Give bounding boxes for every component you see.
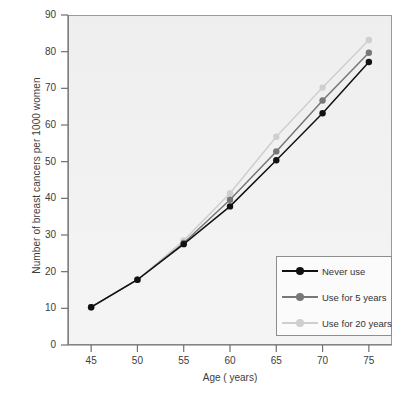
x-tick-label: 65 <box>261 355 291 366</box>
x-tick-label: 50 <box>122 355 152 366</box>
y-tick-label: 20 <box>30 266 56 277</box>
legend-item: Use for 5 years <box>277 284 393 310</box>
x-tick-label: 45 <box>76 355 106 366</box>
data-point-marker <box>366 37 372 43</box>
legend-key-icon <box>282 316 318 330</box>
y-tick-label: 0 <box>30 339 56 350</box>
y-tick-label: 50 <box>30 156 56 167</box>
data-point-marker <box>181 241 187 247</box>
data-point-marker <box>273 157 279 163</box>
legend-item-label: Use for 20 years <box>322 318 392 329</box>
x-tick-label: 60 <box>215 355 245 366</box>
data-point-marker <box>319 84 325 90</box>
legend-item-label: Never use <box>322 266 365 277</box>
y-axis-ticks <box>61 15 68 345</box>
data-point-marker <box>134 277 140 283</box>
data-point-marker <box>273 134 279 140</box>
data-point-marker <box>227 190 233 196</box>
y-tick-label: 70 <box>30 82 56 93</box>
y-tick-label: 80 <box>30 46 56 57</box>
data-point-marker <box>366 59 372 65</box>
data-point-marker <box>319 97 325 103</box>
legend-dot-swatch <box>296 267 304 275</box>
x-tick-label: 75 <box>354 355 384 366</box>
data-point-marker <box>319 110 325 116</box>
x-axis-ticks <box>91 345 369 352</box>
chart-legend: Never useUse for 5 yearsUse for 20 years <box>276 256 392 336</box>
legend-key-icon <box>282 264 318 278</box>
y-tick-label: 60 <box>30 119 56 130</box>
y-tick-label: 30 <box>30 229 56 240</box>
x-axis-title: Age ( years) <box>68 372 392 383</box>
y-tick-label: 40 <box>30 192 56 203</box>
legend-dot-swatch <box>296 319 304 327</box>
x-tick-label: 70 <box>308 355 338 366</box>
data-point-marker <box>88 304 94 310</box>
legend-dot-swatch <box>296 293 304 301</box>
data-point-marker <box>366 50 372 56</box>
legend-item: Use for 20 years <box>277 310 393 336</box>
chart-canvas <box>0 0 411 399</box>
x-tick-label: 55 <box>169 355 199 366</box>
data-point-marker <box>227 197 233 203</box>
chart-figure: Number of breast cancers per 1000 women … <box>0 0 411 399</box>
data-point-marker <box>273 148 279 154</box>
y-tick-label: 90 <box>30 9 56 20</box>
legend-item-label: Use for 5 years <box>322 292 386 303</box>
data-point-marker <box>227 203 233 209</box>
legend-item: Never use <box>277 258 393 284</box>
y-tick-label: 10 <box>30 302 56 313</box>
legend-key-icon <box>282 290 318 304</box>
